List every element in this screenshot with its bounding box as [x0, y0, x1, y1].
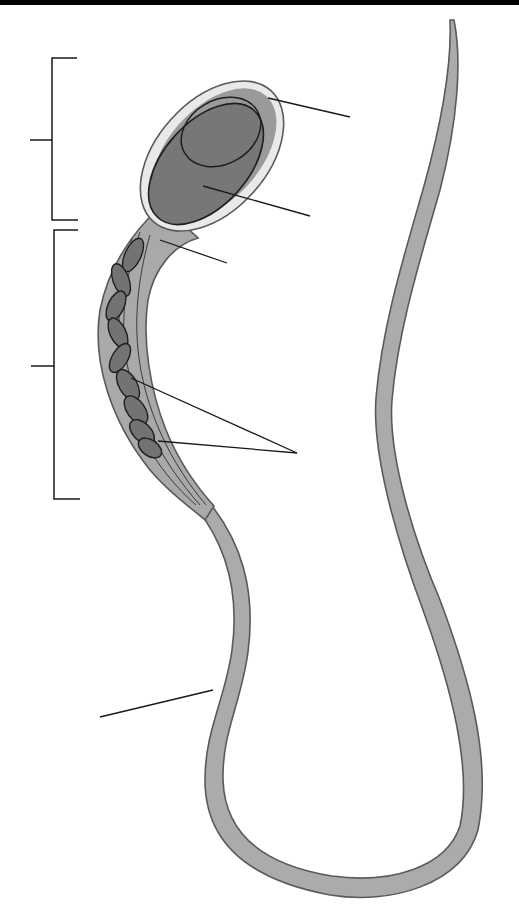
bracket-head: [30, 58, 78, 220]
leader-line-mitochondria-2: [158, 441, 297, 453]
leader-line-tail: [100, 690, 213, 717]
sperm-diagram: [0, 0, 519, 922]
bracket-midpiece: [31, 230, 80, 499]
